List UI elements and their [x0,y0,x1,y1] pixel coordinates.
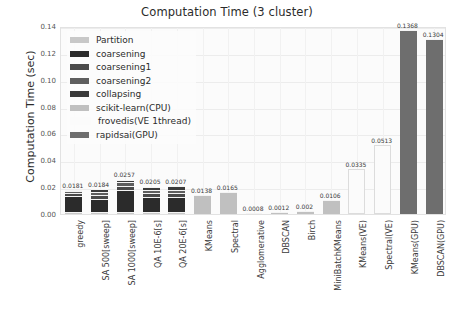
bar-segment [194,195,211,214]
bar-value-label: 0.1304 [423,31,444,38]
chart-title: Computation Time (3 cluster) [0,5,454,19]
legend-item[interactable]: coarsening1 [70,61,191,74]
x-tick-label: QA 20E-6[s] [179,220,188,268]
y-tick-label: 0.00 [16,211,56,219]
bar-group[interactable] [348,27,365,214]
bar-value-label: 0.0165 [217,184,238,191]
legend-label: coarsening1 [96,62,151,72]
stacked-bar[interactable] [246,213,263,214]
legend-item[interactable]: scikit-learn(CPU) [70,102,191,115]
y-tick-label: 0.10 [16,77,56,85]
bar-segment [246,213,263,214]
bar-segment [143,212,160,214]
stacked-bar[interactable] [65,190,82,214]
legend-item[interactable]: coarsening2 [70,75,191,88]
stacked-bar[interactable] [323,200,340,214]
bar-segment [91,199,108,213]
bar-segment [65,212,82,214]
bar-segment [271,212,288,214]
x-tick-label: MiniBatchKMeans [334,220,343,291]
chart-figure: Computation Time (3 cluster) Computation… [0,0,454,317]
chart-legend: Partitioncoarseningcoarsening1coarsening… [67,31,196,144]
bar-group[interactable] [374,27,391,214]
bar-value-label: 0.0008 [243,205,264,212]
bar-value-label: 0.0257 [114,171,135,178]
x-tick-label: DBSCAN [282,220,291,254]
bar-group[interactable] [426,27,443,214]
y-tick-label: 0.12 [16,50,56,58]
legend-swatch-1 [70,51,89,57]
legend-swatch-5 [70,105,89,111]
bar-value-label: 0.0513 [371,137,392,144]
y-tick-label: 0.14 [16,23,56,31]
bar-value-label: 0.0181 [62,182,83,189]
bar-group[interactable] [400,27,417,214]
bar-segment [143,197,160,212]
bar-segment [65,196,82,212]
bar-value-label: 0.1368 [397,22,418,29]
legend-swatch-6 [70,117,91,125]
bar-value-label: 0.0184 [88,181,109,188]
y-tick-label: 0.04 [16,157,56,165]
stacked-bar[interactable] [143,186,160,214]
bar-segment [400,30,417,214]
stacked-bar[interactable] [374,145,391,214]
x-tick-label: SA 500[sweep] [102,220,111,280]
bar-group[interactable] [194,27,211,214]
bar-group[interactable] [246,27,263,214]
y-tick-label: 0.08 [16,104,56,112]
legend-swatch-2 [70,64,89,70]
x-tick-label: Spectral(VE) [385,220,394,270]
stacked-bar[interactable] [400,30,417,214]
legend-label: rapidsai(GPU) [96,130,158,140]
x-tick-label: KMeans(GPU) [411,220,420,274]
y-tick-label: 0.06 [16,130,56,138]
legend-swatch-7 [70,132,89,138]
stacked-bar[interactable] [194,195,211,214]
x-tick-label: QA 10E-6[s] [154,220,163,268]
bar-segment [117,212,134,214]
legend-item[interactable]: coarsening [70,48,191,61]
legend-label: scikit-learn(CPU) [96,103,171,113]
bar-segment [297,211,314,214]
x-tick-label: DBSCAN(GPU) [437,220,446,277]
legend-item[interactable]: Partition [70,34,191,47]
stacked-bar[interactable] [271,212,288,214]
legend-label: collapsing [96,89,141,99]
bar-group[interactable] [271,27,288,214]
x-tick-label: Spectral [231,220,240,253]
bar-segment [348,169,365,214]
stacked-bar[interactable] [91,189,108,214]
legend-item[interactable]: frovedis(VE 1thread) [70,115,191,128]
bar-segment [91,212,108,214]
legend-swatch-0 [70,37,89,43]
bar-segment [117,190,134,212]
bar-value-label: 0.0335 [345,161,366,168]
stacked-bar[interactable] [220,192,237,214]
stacked-bar[interactable] [117,180,134,215]
legend-swatch-3 [70,78,89,84]
y-tick-label: 0.02 [16,184,56,192]
legend-label: Partition [96,35,134,45]
bar-value-label: 0.002 [296,203,313,210]
stacked-bar[interactable] [426,39,443,214]
bar-segment [220,192,237,214]
x-tick-label: Agglomerative [257,220,266,279]
legend-label: coarsening2 [96,76,151,86]
legend-item[interactable]: rapidsai(GPU) [70,129,191,142]
x-tick-label: SA 1000[sweep] [128,220,137,285]
bar-value-label: 0.0012 [268,204,289,211]
stacked-bar[interactable] [168,186,185,214]
legend-item[interactable]: collapsing [70,88,191,101]
bar-value-label: 0.0205 [140,178,161,185]
bar-value-label: 0.0106 [320,192,341,199]
bar-segment [426,39,443,214]
bar-value-label: 0.0207 [165,178,186,185]
stacked-bar[interactable] [348,169,365,214]
stacked-bar[interactable] [297,211,314,214]
x-tick-label: KMeans(VE) [359,220,368,268]
bar-segment [168,197,185,212]
bar-group[interactable] [323,27,340,214]
bar-value-label: 0.0138 [191,187,212,194]
bar-group[interactable] [297,27,314,214]
